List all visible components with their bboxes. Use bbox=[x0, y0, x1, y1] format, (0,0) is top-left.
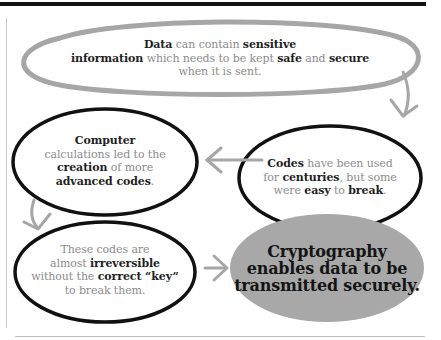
emphasis-text: sensitive bbox=[243, 38, 296, 51]
node-computer-text: Computercalculations led to thecreation … bbox=[30, 134, 180, 188]
node-data-text: Data can contain sensitiveinformation wh… bbox=[50, 38, 390, 79]
node-codes-text: Codes have been usedfor centuries, but s… bbox=[255, 157, 405, 198]
body-text: when it is sent. bbox=[178, 65, 261, 78]
emphasis-text: information bbox=[71, 52, 143, 65]
emphasis-text: break bbox=[348, 184, 383, 197]
body-text: of more bbox=[107, 161, 153, 174]
emphasis-text: Data bbox=[144, 38, 172, 51]
emphasis-text: creation bbox=[57, 161, 107, 174]
emphasis-text: easy bbox=[304, 184, 330, 197]
emphasis-text: advanced codes bbox=[56, 175, 151, 188]
body-text: were bbox=[274, 184, 305, 197]
body-text: calculations led to the bbox=[44, 148, 165, 161]
node-irreversible-text: These codes arealmost irreversiblewithou… bbox=[30, 243, 180, 297]
body-text: without the bbox=[31, 270, 97, 283]
emphasis-text: secure bbox=[329, 52, 369, 65]
body-text: , but some bbox=[339, 171, 396, 184]
emphasis-text: safe bbox=[277, 52, 302, 65]
emphasis-text: Codes bbox=[267, 157, 303, 170]
body-text: and bbox=[302, 52, 329, 65]
cryptography-line-2: enables data to be bbox=[232, 260, 422, 277]
emphasis-text: correct “key” bbox=[98, 270, 179, 283]
emphasis-text: Computer bbox=[75, 134, 136, 147]
body-text: can contain bbox=[172, 38, 242, 51]
body-text: to break them. bbox=[65, 284, 146, 297]
node-cryptography-text: Cryptography enables data to be transmit… bbox=[232, 243, 422, 294]
cryptography-line-3: transmitted securely. bbox=[232, 277, 422, 294]
body-text: for bbox=[263, 171, 282, 184]
body-text: almost bbox=[50, 257, 90, 270]
body-text: These codes are bbox=[61, 243, 150, 256]
body-text: . bbox=[151, 175, 154, 188]
body-text: to bbox=[331, 184, 349, 197]
emphasis-text: irreversible bbox=[90, 257, 160, 270]
cryptography-line-1: Cryptography bbox=[232, 243, 422, 260]
body-text: which needs to be kept bbox=[143, 52, 277, 65]
emphasis-text: centuries bbox=[282, 171, 339, 184]
arrow-irreversible-to-cryptography bbox=[205, 256, 227, 280]
body-text: . bbox=[383, 184, 386, 197]
body-text: have been used bbox=[304, 157, 393, 170]
